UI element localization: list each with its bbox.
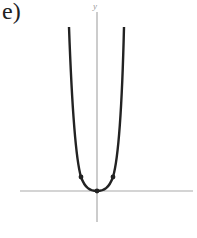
y-axis-label: y — [92, 1, 97, 11]
point-vertex — [95, 189, 100, 194]
point-left — [79, 175, 84, 180]
parabola-graph: y — [0, 0, 197, 238]
point-right — [111, 175, 116, 180]
